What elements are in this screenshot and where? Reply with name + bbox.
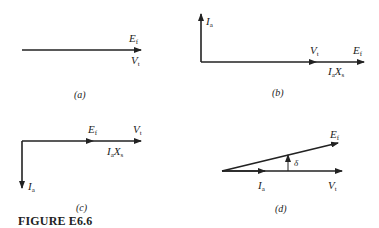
caption-a: (a) (74, 90, 86, 100)
caption-b: (b) (272, 88, 284, 98)
ia-label-c: Ia (28, 181, 35, 196)
panel-d-phasors (222, 143, 342, 171)
ia-label-b: Ia (206, 16, 213, 31)
figure-title: FIGURE E6.6 (18, 214, 92, 227)
vt-label-c: Vt (133, 124, 142, 139)
ef-label-d: Ef (330, 129, 339, 144)
panel-b-phasors (201, 14, 364, 62)
caption-d: (d) (275, 204, 287, 214)
ef-label-b: Ef (353, 45, 362, 60)
iaxs-label-c: IaXs (107, 146, 123, 161)
vt-label-b: Vt (310, 45, 319, 60)
phasor-diagrams (0, 0, 379, 228)
delta-label-d: δ (294, 158, 298, 169)
caption-c: (c) (76, 203, 87, 213)
ef-label-c: Ef (88, 124, 97, 139)
vt-label-a: Vt (131, 55, 140, 70)
ef-phasor-d (222, 143, 338, 171)
vt-label-d: Vt (328, 180, 337, 195)
ia-label-d: Ia (258, 180, 265, 195)
iaxs-label-b: IaXs (328, 66, 344, 81)
ef-label-a: Ef (129, 33, 138, 48)
